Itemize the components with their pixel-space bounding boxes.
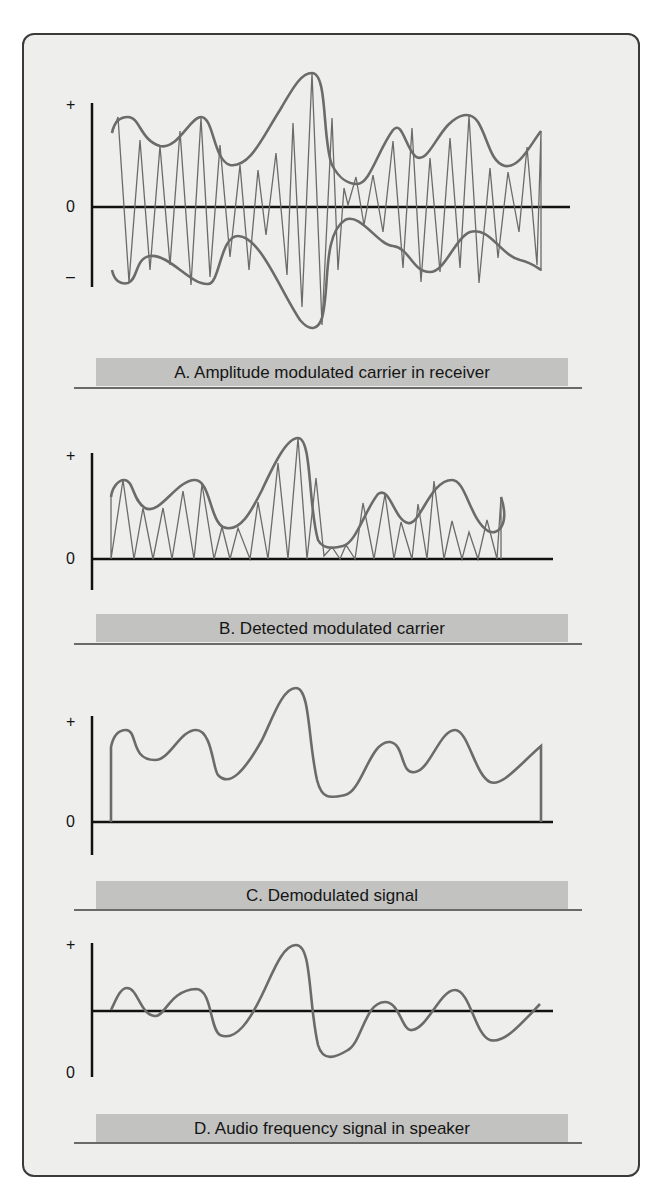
panel-a-plus-label: + [66,96,75,114]
panel-b-caption: B. Detected modulated carrier [96,614,568,642]
panel-d-plot [92,943,553,1077]
panel-c-rule [74,909,582,911]
panel-d-caption: D. Audio frequency signal in speaker [96,1114,568,1142]
panel-b-rule [74,643,582,645]
panel-b-plus-label: + [66,447,75,465]
am-signal-diagram [0,0,664,1197]
panel-c-caption: C. Demodulated signal [96,881,568,909]
panel-d-rule [74,1142,582,1144]
panel-c-zero-label: 0 [66,813,75,831]
panel-a-caption: A. Amplitude modulated carrier in receiv… [96,358,568,386]
panel-a-zero-label: 0 [66,198,75,216]
panel-b-plot [92,438,553,590]
panel-d-zero-label: 0 [66,1064,75,1082]
panel-b-zero-label: 0 [66,550,75,568]
panel-a-plot [92,73,570,328]
panel-c-plus-label: + [66,713,75,731]
panel-a-minus-label: – [66,268,75,286]
panel-c-plot [92,688,553,855]
panel-a-rule [74,387,582,389]
panel-d-plus-label: + [66,936,75,954]
